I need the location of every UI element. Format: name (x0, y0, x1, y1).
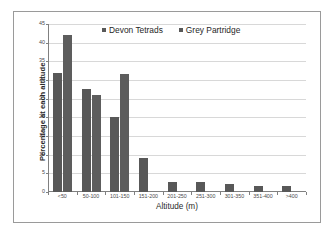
y-axis-title: Percentage at each altitude (39, 37, 47, 187)
bar[interactable] (168, 182, 177, 192)
x-tick-label: 201-250 (163, 194, 192, 199)
plot-area: 051015202530354045 (48, 24, 306, 192)
bar-group (77, 24, 106, 192)
bar[interactable] (196, 182, 205, 192)
bar-group (277, 24, 306, 192)
chart-frame: Devon Tetrads Grey Partridge 05101520253… (13, 11, 321, 223)
x-tick-label: <50 (48, 194, 77, 199)
bar-group (191, 24, 220, 192)
x-tick-label: 101-150 (105, 194, 134, 199)
bar[interactable] (139, 158, 148, 192)
x-tick-label: 351-400 (249, 194, 278, 199)
x-tick-mark (306, 192, 307, 195)
y-tick-label: 45 (39, 21, 45, 26)
bar-group (249, 24, 278, 192)
bar[interactable] (110, 117, 119, 192)
bar-group (220, 24, 249, 192)
bar-group (105, 24, 134, 192)
bar[interactable] (225, 184, 234, 192)
bar[interactable] (82, 89, 91, 192)
x-axis-labels: <5050-100101-150151-200201-250251-300301… (48, 194, 306, 199)
x-tick-label: 151-200 (134, 194, 163, 199)
chart-canvas: Devon Tetrads Grey Partridge 05101520253… (14, 12, 320, 222)
x-tick-label: 50-100 (77, 194, 106, 199)
bar-group (48, 24, 77, 192)
bar-group (163, 24, 192, 192)
bar[interactable] (120, 74, 129, 192)
bar[interactable] (92, 95, 101, 192)
x-axis-title: Altitude (m) (48, 203, 306, 211)
bar[interactable] (53, 73, 62, 192)
y-tick-label: 0 (42, 189, 45, 194)
x-tick-label: 301-350 (220, 194, 249, 199)
bar-group (134, 24, 163, 192)
x-tick-label: >400 (277, 194, 306, 199)
x-tick-label: 251-300 (191, 194, 220, 199)
bars-layer (48, 24, 306, 192)
bar[interactable] (63, 35, 72, 192)
